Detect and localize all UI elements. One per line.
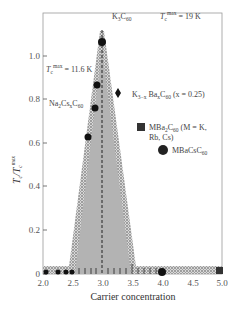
svg-text:3.5: 3.5	[127, 278, 139, 288]
svg-text:3.0: 3.0	[97, 278, 109, 288]
svg-text:5.0: 5.0	[216, 278, 228, 288]
svg-text:1.0: 1.0	[29, 51, 41, 61]
svg-text:4.5: 4.5	[187, 278, 199, 288]
y-tick-labels: 0 0.2 0.4 0.6 0.8 1.0	[29, 51, 41, 279]
annotation-k3xbaxc60: K3−x BaxC60 (x = 0.25)	[132, 90, 205, 100]
svg-text:2.5: 2.5	[67, 278, 79, 288]
annotation-k3c60: K3C60	[112, 12, 132, 22]
baseline-band-right	[135, 266, 222, 274]
svg-text:2.0: 2.0	[37, 278, 49, 288]
legend-label-mba2c60: MBa2C60 (M = K,	[149, 123, 207, 133]
x-axis-title: Carrier concentration	[90, 291, 175, 302]
legend-label-mba2c60-line2: Rb, Cs)	[149, 133, 174, 142]
legend: MBa2C60 (M = K, Rb, Cs) MBaCsC60	[137, 123, 208, 156]
annotation-tcmax-11-6k: Tcmax = 11.6 K	[46, 63, 93, 75]
svg-text:0.4: 0.4	[29, 181, 41, 191]
plot-frame	[43, 13, 222, 274]
svg-text:0.6: 0.6	[29, 138, 41, 148]
svg-text:0.8: 0.8	[29, 94, 41, 104]
annotation-tcmax-19k: Tcmax = 19 K	[160, 10, 201, 22]
svg-text:4.0: 4.0	[157, 278, 169, 288]
legend-label-mbacsc60: MBaCsC60	[172, 146, 208, 156]
y-ticks	[43, 56, 47, 274]
y-axis-title: Tc/Tcmax	[10, 155, 23, 184]
legend-square-marker	[137, 123, 145, 131]
x-tick-labels: 2.0 2.5 3.0 3.5 4.0 4.5 5.0	[37, 278, 228, 288]
svg-text:0.2: 0.2	[29, 225, 40, 235]
annotation-na2csxc60: Na2CsxC60	[49, 99, 83, 109]
legend-circle-marker	[158, 145, 168, 155]
chart-canvas: 0 0.2 0.4 0.6 0.8 1.0 2.0 2.5 3.0 3.5 4.…	[0, 0, 239, 312]
